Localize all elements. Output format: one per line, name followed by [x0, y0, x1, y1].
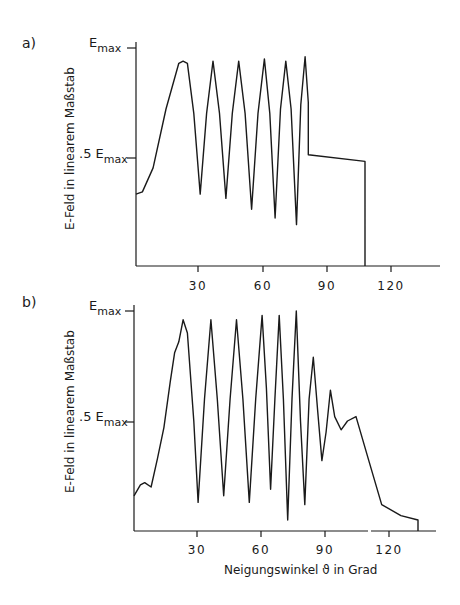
panel-a-y-axis-label: E-Feld in linearem Maßstab	[63, 67, 77, 230]
panel-a-ytick-emax: Emax	[89, 35, 122, 55]
panel-b-xtick-60: 60	[252, 543, 270, 557]
panel-a-x-ticks: 30 60 90 120	[189, 266, 405, 293]
panel-a-ytick-half: .5 Emax	[79, 146, 128, 166]
panel-b-x-ticks: 30 60 90 120	[188, 531, 403, 557]
panel-b: b) E-Feld in linearem Maßstab Emax .5 Em…	[22, 294, 436, 577]
panel-b-ytick-half: .5 Emax	[79, 409, 128, 429]
panel-b-y-axis-label: E-Feld in linearem Maßstab	[63, 330, 77, 493]
panel-b-xtick-30: 30	[188, 543, 206, 557]
panel-a-label: a)	[22, 35, 36, 51]
panel-a-curve	[136, 57, 365, 266]
panel-a: a) E-Feld in linearem Maßstab Emax .5 Em…	[22, 35, 440, 293]
panel-b-x-axis-label: Neigungswinkel ϑ in Grad	[224, 563, 377, 577]
panel-b-label: b)	[22, 294, 36, 310]
panel-a-xtick-120: 120	[377, 279, 404, 293]
panel-a-xtick-90: 90	[318, 279, 336, 293]
figure: a) E-Feld in linearem Maßstab Emax .5 Em…	[0, 0, 460, 605]
panel-b-ytick-emax: Emax	[89, 298, 122, 318]
panel-a-xtick-30: 30	[189, 279, 207, 293]
panel-b-xtick-90: 90	[316, 543, 334, 557]
panel-b-xtick-120: 120	[375, 543, 402, 557]
panel-a-xtick-60: 60	[254, 279, 272, 293]
panel-b-curve	[134, 311, 418, 531]
